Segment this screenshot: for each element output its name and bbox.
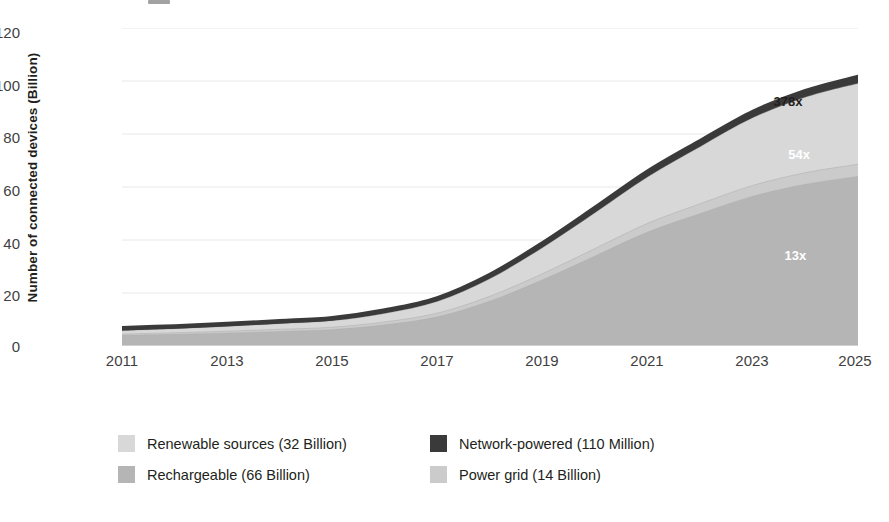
y-tick-40: 40 xyxy=(0,236,20,251)
y-tick-120: 120 xyxy=(0,25,20,40)
legend-label: Power grid (14 Billion) xyxy=(459,467,601,483)
annotation-378x: 378x xyxy=(774,94,803,109)
x-tick-2015: 2015 xyxy=(292,352,372,369)
legend-item-power-grid[interactable]: Power grid (14 Billion) xyxy=(430,459,770,490)
legend-label: Rechargeable (66 Billion) xyxy=(147,467,310,483)
stacked-area-svg xyxy=(122,28,858,346)
x-tick-2011: 2011 xyxy=(82,352,162,369)
legend-label: Renewable sources (32 Billion) xyxy=(147,436,347,452)
legend-swatch-icon xyxy=(430,466,447,483)
legend-label: Network-powered (110 Million) xyxy=(459,436,655,452)
legend-row: Rechargeable (66 Billion) Power grid (14… xyxy=(118,459,818,490)
legend-swatch-icon xyxy=(118,435,135,452)
legend-item-network-powered[interactable]: Network-powered (110 Million) xyxy=(430,428,770,459)
x-tick-2017: 2017 xyxy=(397,352,477,369)
area-chart: Number of connected devices (Billion) 12… xyxy=(0,0,889,522)
legend-row: Renewable sources (32 Billion) Network-p… xyxy=(118,428,818,459)
x-tick-2021: 2021 xyxy=(607,352,687,369)
y-tick-100: 100 xyxy=(0,78,20,93)
legend-swatch-icon xyxy=(118,466,135,483)
x-tick-2023: 2023 xyxy=(712,352,792,369)
annotation-54x: 54x xyxy=(788,146,810,161)
y-tick-60: 60 xyxy=(0,183,20,198)
y-tick-80: 80 xyxy=(0,130,20,145)
annotation-13x: 13x xyxy=(785,248,807,263)
x-tick-2019: 2019 xyxy=(502,352,582,369)
cropped-title-remnant xyxy=(148,0,170,4)
x-tick-2013: 2013 xyxy=(187,352,267,369)
legend: Renewable sources (32 Billion) Network-p… xyxy=(118,428,818,490)
y-tick-0: 0 xyxy=(0,339,20,354)
plot-area: 378x 54x 13x xyxy=(122,28,858,346)
legend-item-renewable-sources[interactable]: Renewable sources (32 Billion) xyxy=(118,428,430,459)
y-tick-20: 20 xyxy=(0,288,20,303)
y-axis-title: Number of connected devices (Billion) xyxy=(25,28,40,328)
x-tick-2025: 2025 xyxy=(815,352,889,369)
legend-swatch-icon xyxy=(430,435,447,452)
legend-item-rechargeable[interactable]: Rechargeable (66 Billion) xyxy=(118,459,430,490)
